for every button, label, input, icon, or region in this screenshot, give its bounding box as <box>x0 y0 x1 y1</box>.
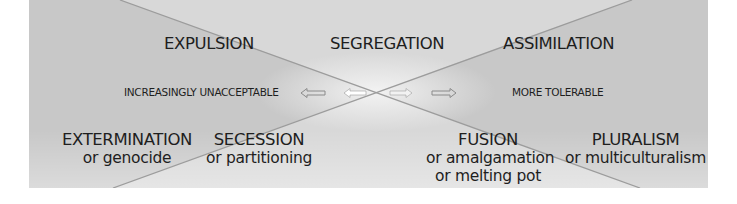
secession-title: SECESSION <box>206 130 312 149</box>
label-increasingly-unacceptable: INCREASINGLY UNACCEPTABLE <box>124 86 279 98</box>
pluralism-subtitle: or multiculturalism <box>564 149 707 167</box>
arrow-left-solid-icon <box>343 87 367 99</box>
label-assimilation: ASSIMILATION <box>503 34 614 53</box>
secession-subtitle: or partitioning <box>206 149 312 167</box>
arrow-left-outline-icon <box>300 87 326 99</box>
fusion-title: FUSION <box>426 130 550 149</box>
arrow-right-outline-icon <box>431 87 457 99</box>
arrow-right-solid-icon <box>389 87 413 99</box>
extermination-title: EXTERMINATION <box>62 130 192 149</box>
label-secession: SECESSION or partitioning <box>206 130 312 167</box>
label-expulsion: EXPULSION <box>164 34 254 53</box>
label-extermination: EXTERMINATION or genocide <box>62 130 192 167</box>
label-more-tolerable: MORE TOLERABLE <box>512 86 603 98</box>
label-fusion: FUSION or amalgamation or melting pot <box>426 130 550 185</box>
pluralism-title: PLURALISM <box>564 130 707 149</box>
fusion-subtitle-2: or melting pot <box>426 167 550 185</box>
label-pluralism: PLURALISM or multiculturalism <box>564 130 707 167</box>
label-segregation: SEGREGATION <box>330 34 444 53</box>
extermination-subtitle: or genocide <box>62 149 192 167</box>
fusion-subtitle-1: or amalgamation <box>426 149 550 167</box>
